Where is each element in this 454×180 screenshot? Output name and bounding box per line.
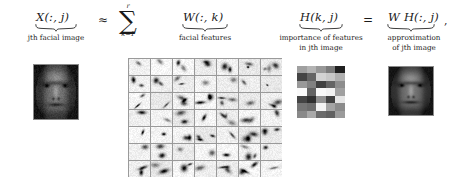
underbrace-wh [387, 24, 435, 32]
term-wh-math: W H(:, j) [388, 10, 439, 24]
term-x-math: X(:, j) [36, 10, 69, 24]
equals-operator: = [363, 14, 373, 26]
underbrace-x [35, 24, 77, 32]
caption-wh-line2: of jth image [378, 43, 450, 53]
term-wh: W H(:, j) [388, 12, 439, 24]
caption-wh-line1: approximation [378, 33, 450, 43]
term-h: H(k, j) [300, 12, 338, 24]
term-x: X(:, j) [36, 12, 69, 24]
underbrace-w [182, 24, 228, 32]
term-h-math: H(k, j) [300, 10, 338, 24]
summation-lower-limit: k=1 [112, 31, 144, 38]
nmf-equation-figure: X(:, j) jth facial image ≈ r ∑ k=1 W(:, … [0, 0, 454, 180]
caption-wh: approximation of jth image [378, 33, 450, 52]
term-w-math: W(:, k) [183, 10, 223, 24]
caption-w: facial features [165, 33, 245, 42]
trailing-comma: , [444, 14, 448, 27]
summation-symbol: ∑ [112, 10, 144, 31]
underbrace-h [299, 24, 343, 32]
importance-heatmap [297, 66, 345, 118]
caption-h-line1: importance of features [272, 33, 370, 43]
term-w: W(:, k) [183, 12, 223, 24]
caption-h-line2: in jth image [272, 43, 370, 53]
approx-operator: ≈ [98, 14, 108, 26]
caption-h: importance of features in jth image [272, 33, 370, 52]
jth-facial-image [33, 64, 79, 120]
summation: r ∑ k=1 [112, 3, 144, 38]
caption-x: jth facial image [12, 33, 100, 42]
facial-features-grid [128, 58, 282, 177]
approximation-image [388, 66, 434, 116]
